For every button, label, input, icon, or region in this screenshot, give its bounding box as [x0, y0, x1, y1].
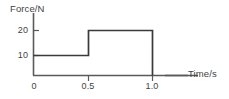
x-tick-label-10: 1.0	[139, 81, 165, 91]
y-tick-label-20: 20	[8, 25, 28, 35]
x-tick-label-05: 0.5	[75, 81, 101, 91]
x-axis-title: Time/s	[188, 69, 217, 79]
force-time-chart: Force/N Time/s 20 10 0 0.5 1.0	[0, 0, 229, 99]
x-tick-label-0: 0	[21, 81, 47, 91]
force-step-curve	[34, 31, 153, 76]
y-axis-title: Force/N	[10, 4, 44, 14]
y-tick-label-10: 10	[8, 50, 28, 60]
